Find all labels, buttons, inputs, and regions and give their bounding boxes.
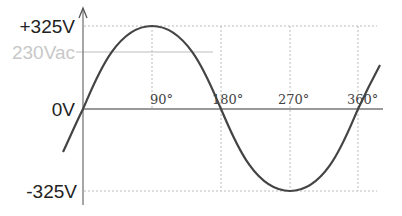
label-peak-neg: -325V (26, 181, 77, 202)
label-180: 180° (212, 92, 243, 107)
sine-wave-diagram: +325V 230Vac 0V -325V 90° 180° 270° 360° (0, 0, 402, 216)
label-peak-pos: +325V (20, 16, 76, 37)
label-rms: 230Vac (12, 42, 75, 63)
label-270: 270° (278, 92, 309, 107)
label-90: 90° (150, 92, 173, 107)
label-360: 360° (347, 92, 378, 107)
label-zero: 0V (52, 99, 76, 120)
